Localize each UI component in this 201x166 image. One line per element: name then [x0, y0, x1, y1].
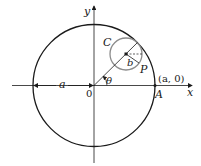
point-a-coords-label: (a, 0): [158, 73, 185, 84]
x-axis-label: x: [187, 86, 194, 99]
diagram-canvas: y x 0 a C b P A (a, 0) θ: [0, 0, 201, 166]
angle-theta-label: θ: [106, 75, 112, 86]
small-radius-label: b: [127, 57, 133, 68]
small-circle-center-dot: [125, 53, 128, 56]
point-a-label: A: [154, 88, 163, 101]
origin-label: 0: [86, 88, 92, 99]
point-a-dot: [154, 84, 157, 87]
point-p-label: P: [139, 63, 148, 76]
radius-a-label: a: [59, 78, 66, 91]
y-axis-label: y: [83, 5, 91, 18]
small-circle-label: C: [103, 36, 112, 49]
